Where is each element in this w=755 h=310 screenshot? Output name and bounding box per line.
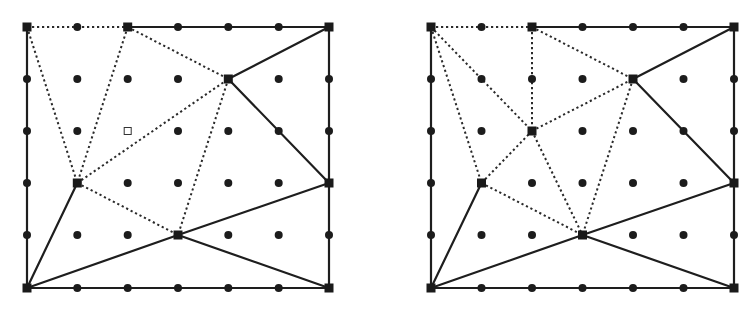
grid-dot (478, 284, 486, 292)
grid-dot (478, 75, 486, 83)
solid-edges (431, 27, 734, 288)
grid-dot (579, 127, 587, 135)
grid-dot (680, 284, 688, 292)
mesh-vertex-square (528, 127, 537, 136)
grid-dot (629, 284, 637, 292)
mesh-vertex-square (629, 75, 638, 84)
grid-dot (427, 127, 435, 135)
grid-dot (579, 75, 587, 83)
mesh-vertex-square (528, 23, 537, 32)
grid-dot (579, 179, 587, 187)
grid-dot (478, 127, 486, 135)
grid-dots (427, 23, 738, 292)
grid-dot (730, 127, 738, 135)
mesh-vertex-square (427, 284, 436, 293)
grid-dot (730, 231, 738, 239)
mesh-vertex-square (427, 23, 436, 32)
grid-dot (528, 284, 536, 292)
dotted-edge (532, 131, 583, 235)
grid-dot (579, 23, 587, 31)
grid-dot (680, 23, 688, 31)
grid-dot (579, 284, 587, 292)
grid-dot (528, 75, 536, 83)
dotted-edge (431, 27, 482, 183)
mesh-vertex-square (578, 231, 587, 240)
grid-dot (629, 179, 637, 187)
grid-dot (629, 231, 637, 239)
mesh-vertex-square (730, 23, 739, 32)
grid-dot (730, 75, 738, 83)
dotted-edge (583, 79, 634, 235)
grid-dot (528, 179, 536, 187)
mesh-vertex-square (730, 284, 739, 293)
grid-dot (629, 23, 637, 31)
dotted-edge (482, 183, 583, 235)
dotted-edge (532, 27, 633, 79)
grid-dot (427, 179, 435, 187)
solid-edge (583, 183, 735, 235)
grid-dot (427, 75, 435, 83)
grid-dot (680, 75, 688, 83)
grid-dot (629, 127, 637, 135)
grid-dot (478, 231, 486, 239)
mesh-vertex-square (477, 179, 486, 188)
dotted-edge (482, 131, 533, 183)
grid-dot (478, 23, 486, 31)
solid-edge (583, 235, 735, 288)
solid-edge (633, 27, 734, 79)
grid-dot (680, 179, 688, 187)
triangulation-diagram-right (0, 0, 755, 310)
grid-dot (427, 231, 435, 239)
grid-dot (528, 231, 536, 239)
grid-dot (680, 127, 688, 135)
grid-dot (680, 231, 688, 239)
mesh-vertex-square (730, 179, 739, 188)
